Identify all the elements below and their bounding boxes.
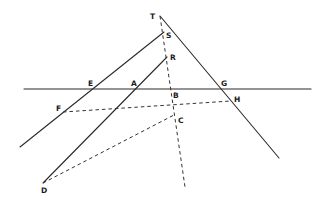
line-t-g-h bbox=[160, 16, 279, 158]
point-label-b: B bbox=[173, 91, 179, 100]
point-label-g: G bbox=[221, 79, 227, 88]
point-label-t: T bbox=[150, 12, 156, 21]
point-label-f: F bbox=[56, 104, 61, 113]
dashed-d-c bbox=[43, 115, 174, 183]
point-label-h: H bbox=[234, 95, 240, 104]
line-r-a-d bbox=[43, 57, 167, 183]
dashed-lines bbox=[43, 16, 231, 187]
point-label-c: C bbox=[178, 116, 184, 125]
point-label-e: E bbox=[88, 79, 93, 88]
point-label-d: D bbox=[41, 186, 47, 195]
point-label-a: A bbox=[131, 79, 137, 88]
dashed-f-c-h bbox=[63, 101, 231, 112]
point-labels: TSREABGHFCD bbox=[41, 12, 240, 195]
point-label-s: S bbox=[166, 31, 171, 40]
geometry-diagram: TSREABGHFCD bbox=[0, 0, 329, 206]
point-label-r: R bbox=[170, 53, 176, 62]
solid-lines bbox=[20, 16, 311, 183]
